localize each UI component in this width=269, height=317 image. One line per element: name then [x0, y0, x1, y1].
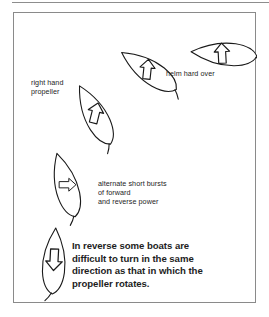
boat-position-2 — [46, 150, 88, 226]
page-top-rule — [12, 2, 269, 3]
figure-caption: In reverse some boats are difficult to t… — [72, 240, 203, 291]
figure-frame: right hand propeller helm hard over alte… — [13, 12, 256, 303]
label-alternate-short-bursts: alternate short bursts of forward and re… — [98, 180, 167, 206]
figure-page: right hand propeller helm hard over alte… — [0, 0, 269, 317]
boat-position-3 — [70, 79, 127, 155]
label-right-hand-propeller: right hand propeller — [31, 79, 63, 97]
boat-position-5 — [190, 40, 257, 68]
label-helm-hard-over: helm hard over — [166, 70, 215, 79]
boat-position-1 — [41, 227, 67, 301]
